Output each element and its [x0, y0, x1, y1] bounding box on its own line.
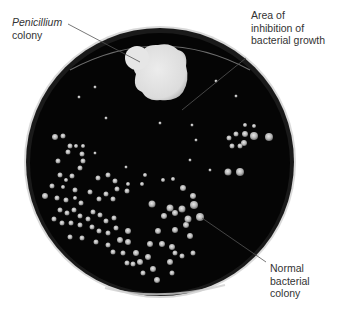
inhibition-label-line1: Area of — [251, 9, 325, 22]
bacterial-label-line3: colony — [270, 287, 310, 300]
inhibition-label-line3: bacterial growth — [251, 34, 325, 47]
inhibition-label-line2: inhibition of — [251, 22, 325, 35]
penicillium-label-line1: Penicillium — [12, 16, 62, 29]
bacterial-label-line1: Normal — [270, 262, 310, 275]
bacterial-label-line2: bacterial — [270, 275, 310, 288]
penicillium-colony-label: Penicillium colony — [12, 16, 62, 41]
inhibition-area-label: Area of inhibition of bacterial growth — [251, 9, 325, 47]
penicillium-label-line2: colony — [12, 29, 62, 42]
normal-bacterial-colony-label: Normal bacterial colony — [270, 262, 310, 300]
